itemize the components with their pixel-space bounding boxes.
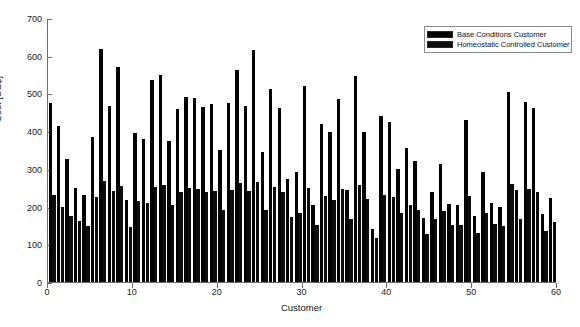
bar bbox=[536, 192, 539, 283]
bar bbox=[324, 196, 327, 282]
legend-swatch-homeostatic-controlled bbox=[427, 41, 453, 48]
bar bbox=[315, 225, 318, 282]
y-axis-tick-label: 100 bbox=[2, 241, 42, 250]
bar bbox=[222, 210, 225, 282]
bar bbox=[179, 192, 182, 282]
y-axis-tick-label: 700 bbox=[2, 15, 42, 24]
bar bbox=[375, 238, 378, 283]
bar bbox=[510, 184, 513, 282]
bar bbox=[409, 205, 412, 282]
bar bbox=[392, 197, 395, 282]
y-axis-tick-label: 500 bbox=[2, 90, 42, 99]
bar bbox=[468, 196, 471, 282]
bar bbox=[129, 227, 132, 282]
bar bbox=[188, 188, 191, 282]
y-axis-tick bbox=[47, 57, 52, 58]
y-axis-tick-label: 300 bbox=[2, 166, 42, 175]
bar bbox=[451, 225, 454, 282]
bar bbox=[230, 190, 233, 282]
bar bbox=[417, 210, 420, 282]
bar bbox=[493, 224, 496, 282]
legend-label-base-conditions: Base Conditions Customer bbox=[457, 31, 546, 39]
bar bbox=[341, 189, 344, 282]
x-axis-tick-label: 30 bbox=[287, 288, 317, 297]
bar bbox=[213, 191, 216, 282]
bar bbox=[61, 207, 64, 282]
bar bbox=[519, 219, 522, 282]
bar bbox=[52, 195, 55, 282]
bar bbox=[502, 226, 505, 282]
bar bbox=[485, 213, 488, 282]
bar bbox=[459, 225, 462, 282]
plot-area bbox=[47, 19, 556, 283]
x-axis-tick-label: 60 bbox=[541, 288, 571, 297]
bar bbox=[434, 219, 437, 282]
x-axis-tick-label: 0 bbox=[32, 288, 62, 297]
y-axis-tick bbox=[47, 94, 52, 95]
legend-label-homeostatic-controlled: Homeostatic Controlled Customer bbox=[457, 41, 570, 49]
y-axis-tick-label: 0 bbox=[2, 279, 42, 288]
y-axis-title: Cost [US$] bbox=[0, 76, 3, 122]
legend-item: Base Conditions Customer bbox=[427, 30, 569, 39]
x-axis-title: Customer bbox=[47, 302, 556, 313]
bar bbox=[425, 234, 428, 282]
bar bbox=[103, 181, 106, 282]
bar bbox=[332, 200, 335, 282]
y-axis-tick-label: 200 bbox=[2, 204, 42, 213]
bar bbox=[196, 189, 199, 282]
x-axis-tick-label: 40 bbox=[371, 288, 401, 297]
bar bbox=[349, 219, 352, 282]
bar bbox=[146, 203, 149, 282]
bar bbox=[544, 231, 547, 282]
figure-canvas: 0100200300400500600700 Cost [US$] 010203… bbox=[0, 0, 580, 327]
bar bbox=[95, 197, 98, 282]
bar bbox=[400, 213, 403, 282]
bar bbox=[553, 222, 556, 282]
x-axis-tick-label: 20 bbox=[202, 288, 232, 297]
bar bbox=[239, 183, 242, 282]
bar bbox=[358, 185, 361, 282]
bar bbox=[78, 221, 81, 282]
bar bbox=[69, 216, 72, 282]
bar bbox=[137, 201, 140, 282]
x-axis-tick-label: 10 bbox=[117, 288, 147, 297]
bar bbox=[290, 217, 293, 282]
legend-item: Homeostatic Controlled Customer bbox=[427, 40, 569, 49]
bar bbox=[256, 182, 259, 282]
bar bbox=[205, 192, 208, 283]
x-axis-tick-label: 50 bbox=[456, 288, 486, 297]
y-axis-tick bbox=[47, 19, 52, 20]
legend-swatch-base-conditions bbox=[427, 31, 453, 38]
bar bbox=[120, 186, 123, 282]
bar bbox=[281, 192, 284, 282]
bar bbox=[476, 233, 479, 282]
bar bbox=[154, 187, 157, 282]
bar bbox=[162, 185, 165, 282]
bar bbox=[264, 210, 267, 282]
bar bbox=[171, 205, 174, 282]
bars-layer bbox=[48, 19, 556, 282]
bar bbox=[112, 191, 115, 282]
bar bbox=[527, 189, 530, 282]
y-axis-tick-label: 600 bbox=[2, 53, 42, 62]
bar bbox=[273, 187, 276, 282]
bar bbox=[247, 191, 250, 282]
bar bbox=[442, 211, 445, 282]
bar bbox=[383, 195, 386, 282]
chart-legend: Base Conditions Customer Homeostatic Con… bbox=[424, 26, 572, 53]
y-axis-tick-label: 400 bbox=[2, 128, 42, 137]
bar bbox=[298, 213, 301, 282]
bar bbox=[86, 226, 89, 282]
bar bbox=[307, 188, 310, 282]
bar bbox=[366, 199, 369, 282]
